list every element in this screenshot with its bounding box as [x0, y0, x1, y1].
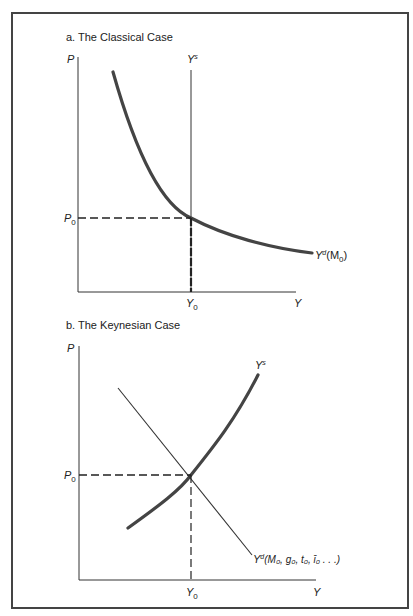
panel-a-p0-label: P0: [64, 212, 76, 227]
figure: a. The Classical Case P Y Ys Yd(M0) P0 Y…: [0, 0, 413, 616]
figure-border: [12, 13, 408, 608]
panel-b-demand-curve: [118, 388, 252, 555]
panel-b-x-axis-label: Y: [313, 586, 321, 598]
panel-a-y0-label: Y0: [186, 297, 198, 312]
panel-keynesian: b. The Keynesian Case P Y Ys Yd(M₀, g₀, …: [64, 319, 340, 601]
panel-b-supply-label: Ys: [255, 359, 266, 371]
panel-b-title: b. The Keynesian Case: [66, 319, 180, 331]
panel-classical: a. The Classical Case P Y Ys Yd(M0) P0 Y…: [64, 31, 347, 312]
panel-b-supply-curve: [128, 375, 258, 528]
panel-a-x-axis-label: Y: [294, 297, 302, 309]
panel-b-p0-label: P0: [64, 469, 76, 484]
panel-a-demand-curve: [113, 72, 312, 253]
panel-a-demand-label: Yd(M0): [315, 249, 347, 264]
panel-b-y0-label: Y0: [186, 586, 198, 601]
panel-a-title: a. The Classical Case: [66, 31, 173, 43]
panel-a-y-axis-label: P: [67, 53, 75, 65]
panel-a-supply-label: Ys: [187, 53, 198, 65]
panel-b-demand-label: Yd(M₀, g₀, t₀, ī₀ . . .): [253, 553, 340, 565]
panel-b-y-axis-label: P: [67, 342, 75, 354]
